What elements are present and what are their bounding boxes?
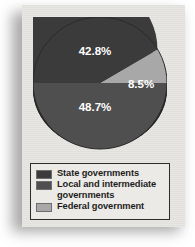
legend: State governments Local and intermediate… [30,163,170,220]
legend-item-federal-government: Federal government [36,201,165,212]
legend-swatch-state-governments [36,170,52,179]
legend-item-local-and-intermediate-governments: Local and intermediate governments [36,179,165,201]
pie-label-federal-government: 8.5% [128,78,154,90]
pie-label-local-and-intermediate-governments: 48.7% [79,101,112,113]
legend-item-state-governments: State governments [36,168,165,179]
pie-graphic: 42.8% 8.5% 48.7% [33,17,167,151]
legend-swatch-federal-government [36,203,52,212]
pie-label-state-governments: 42.8% [79,45,112,57]
legend-swatch-local-and-intermediate-governments [36,181,52,190]
legend-label-state-governments: State governments [57,168,139,179]
pie-svg: 42.8% 8.5% 48.7% [33,17,167,151]
legend-label-federal-government: Federal government [57,201,144,212]
pie-chart-figure: 42.8% 8.5% 48.7% State governments Local… [0,0,195,247]
legend-label-local-and-intermediate-governments: Local and intermediate governments [57,179,156,201]
pie-slice-local-and-intermediate-governments [33,83,167,149]
